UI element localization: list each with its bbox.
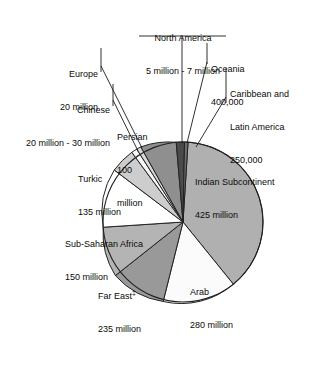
label-arab: Arab 280 million (190, 265, 265, 353)
label-indian-subcontinent: Indian Subcontinent 425 million (195, 155, 315, 243)
label-far-east-value: 235 million (98, 324, 178, 335)
label-far-east-marker: ‡ (132, 289, 136, 296)
label-indian-subcontinent-name: Indian Subcontinent (195, 177, 315, 188)
label-far-east-name-row: Far East‡ (98, 287, 178, 302)
label-chinese-name: Chinese (3, 105, 110, 116)
label-arab-name: Arab (190, 287, 265, 298)
label-far-east-name: Far East (98, 291, 132, 301)
label-europe-name: Europe (15, 69, 98, 80)
label-persian-name: Persian (117, 132, 169, 143)
label-caribbean-name-line1: Caribbean and (230, 89, 325, 100)
label-turkic-name: Turkic (78, 174, 158, 185)
label-indian-subcontinent-value: 425 million (195, 210, 315, 221)
label-far-east: Far East‡ 235 million (98, 265, 178, 357)
label-sub-saharan-africa-name: Sub-Saharan Africa (65, 239, 175, 250)
label-arab-value: 280 million (190, 320, 265, 331)
label-caribbean-name-line2: Latin America (230, 122, 325, 133)
label-chinese-value: 20 million - 30 million (3, 138, 110, 149)
pie-chart-figure: North America 5 million - 7 million Ocea… (0, 0, 325, 369)
